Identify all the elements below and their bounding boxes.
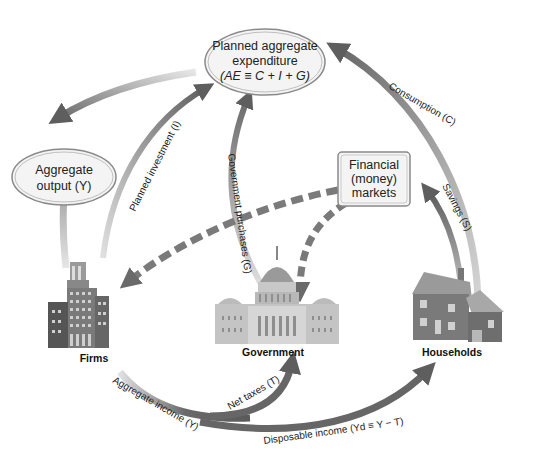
aggregate-income-label: Aggregate income (Y) — [111, 374, 201, 432]
planned-ae-line2: expenditure — [232, 54, 297, 68]
financial-line2: (money) — [351, 172, 397, 186]
planned-ae-line3: (AE ≡ C + I + G) — [220, 69, 310, 83]
financial-line1: Financial — [349, 158, 399, 172]
government-label: Government — [242, 346, 304, 358]
aggregate-output-line1: Aggregate — [35, 163, 93, 177]
financial-line3: markets — [352, 186, 396, 200]
households-label: Households — [422, 346, 482, 358]
consumption-label: Consumption (C) — [387, 80, 458, 127]
firms-label: Firms — [80, 352, 109, 364]
financial-to-government-dashed-arrow — [300, 203, 346, 292]
aggregate-output-line2: output (Y) — [37, 179, 92, 193]
households-house-icon — [412, 268, 504, 342]
firms-building-icon — [48, 262, 109, 348]
government-capitol-icon — [215, 246, 339, 344]
circular-flow-diagram: Planned aggregate expenditure (AE ≡ C + … — [0, 0, 538, 472]
financial-markets-node: Financial (money) markets — [338, 152, 410, 206]
planned-aggregate-expenditure-node: Planned aggregate expenditure (AE ≡ C + … — [205, 29, 325, 95]
aggregate-output-node: Aggregate output (Y) — [12, 149, 116, 205]
planned-ae-line1: Planned aggregate — [212, 39, 318, 53]
